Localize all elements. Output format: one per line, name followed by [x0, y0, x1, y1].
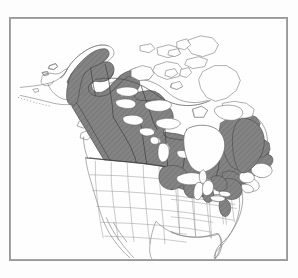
north-america-range-map	[10, 18, 287, 260]
figure-container	[0, 0, 298, 278]
lake-winnipeg-final	[158, 143, 169, 162]
map-frame	[9, 17, 288, 261]
gulf-st-lawrence	[239, 172, 254, 183]
lake-reindeer-final	[150, 137, 159, 145]
